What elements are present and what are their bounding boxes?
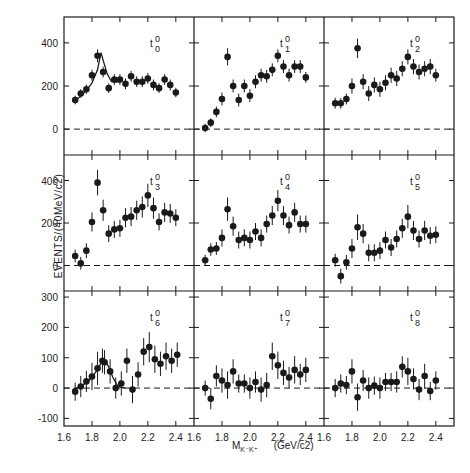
panel-3: t03 [64,155,194,291]
data-point [286,72,293,79]
data-point [280,212,287,219]
data-point [83,378,90,385]
data-point [377,86,384,93]
plot-grid: t000200400t01t02t030200400t04t05t06-1000… [0,0,470,473]
data-point [263,382,270,389]
data-point [111,226,118,233]
data-point [161,76,168,83]
data-point [207,395,214,402]
data-point [72,253,79,260]
data-point [213,373,220,380]
data-point [433,231,440,238]
x-tick-label: 2.2 [141,432,155,443]
data-point [332,385,339,392]
data-point [405,54,412,61]
x-tick-label: 2.0 [113,432,127,443]
data-point [286,374,293,381]
data-point [275,197,282,204]
data-point [150,205,157,212]
panel-label-sub: 7 [285,318,290,328]
y-tick-label: 100 [41,353,58,364]
y-tick-label: 400 [41,38,58,49]
panel-label-sub: 0 [155,44,160,54]
data-point [174,351,181,358]
data-point [247,237,254,244]
data-point [133,207,140,214]
data-point [433,377,440,384]
data-point [122,214,129,221]
data-point [224,54,231,61]
panel-5: t05 [324,155,454,291]
data-point [354,224,361,231]
panel-label-sub: 4 [285,182,290,192]
panel-label: t [410,176,413,187]
data-point [291,367,298,374]
data-point [89,373,96,380]
data-point [89,219,96,226]
data-point [173,214,180,221]
x-axis-unit: (GeV/c2) [274,440,314,451]
y-tick-label: -100 [38,413,58,424]
y-tick-label: 200 [41,322,58,333]
data-point [94,179,101,186]
data-point [202,257,209,264]
panel-label-sub: 6 [155,318,160,328]
panel-label-sup: 0 [415,172,420,182]
data-point [286,222,293,229]
data-point [224,382,231,389]
data-point [129,386,136,393]
data-point [303,367,310,374]
data-point [135,371,142,378]
data-point [377,247,384,254]
data-point [150,82,157,89]
data-point [360,377,367,384]
data-point [416,386,423,393]
data-point [139,78,146,85]
data-point [230,83,237,90]
data-point [275,362,282,369]
data-point [393,236,400,243]
data-point [122,81,129,88]
data-point [332,257,339,264]
panel-label: t [150,312,153,323]
panel-label-sup: 0 [285,308,290,318]
data-point [421,227,428,234]
data-point [124,357,131,364]
panel-label-sup: 0 [155,172,160,182]
panel-label: t [410,38,413,49]
x-tick-label: 2.0 [373,432,387,443]
data-point [128,213,135,220]
data-point [117,76,124,83]
data-point [275,53,282,60]
data-point [140,348,147,355]
x-axis-variable: MK⁻K⁺ [232,440,258,451]
data-point [173,89,180,96]
panel-2: t02 [324,17,454,155]
data-point [337,100,344,107]
data-point [145,75,152,82]
data-point [219,235,226,242]
data-point [269,67,276,74]
data-point [105,230,112,237]
panel-label-sup: 0 [285,172,290,182]
data-point [349,245,356,252]
data-point [213,245,220,252]
data-point [156,219,163,226]
data-point [427,232,434,239]
data-point [89,72,96,79]
panel-label-sup: 0 [415,34,420,44]
panel-label-sup: 0 [415,308,420,318]
data-point [291,209,298,216]
data-point [410,376,417,383]
data-point [94,53,101,60]
panel-label-sub: 3 [155,182,160,192]
data-point [117,225,124,232]
data-point [377,385,384,392]
data-point [224,206,231,213]
data-point [280,370,287,377]
data-point [360,230,367,237]
data-point [139,204,146,211]
data-point [77,90,84,97]
data-point [101,359,108,366]
data-point [349,368,356,375]
